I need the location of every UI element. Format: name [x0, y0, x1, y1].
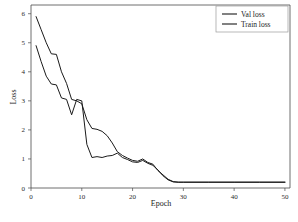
x-tick-label: 40 — [231, 193, 239, 201]
x-tick-label: 30 — [180, 193, 188, 201]
y-tick-label: 6 — [22, 10, 26, 18]
y-tick-label: 3 — [22, 97, 26, 105]
x-tick-label: 10 — [78, 193, 86, 201]
x-tick-label: 20 — [129, 193, 137, 201]
chart-legend: Val loss Train loss — [216, 6, 288, 32]
legend-label-train-loss: Train loss — [241, 20, 271, 29]
x-axis-title: Epoch — [151, 199, 171, 208]
y-axis-title: Loss — [9, 89, 18, 104]
y-tick-label: 5 — [22, 39, 26, 47]
y-tick-label: 4 — [22, 68, 26, 76]
y-tick-label: 1 — [22, 155, 26, 163]
chart-canvas: 0123456 01020304050 Loss Epoch Val loss … — [0, 0, 298, 222]
chart-background — [0, 0, 298, 222]
x-tick-label: 0 — [29, 193, 33, 201]
x-tick-label: 50 — [281, 193, 289, 201]
loss-curve-chart: 0123456 01020304050 Loss Epoch Val loss … — [0, 0, 298, 222]
legend-label-val-loss: Val loss — [241, 10, 265, 19]
y-tick-label: 0 — [22, 185, 26, 193]
y-tick-label: 2 — [22, 126, 26, 134]
